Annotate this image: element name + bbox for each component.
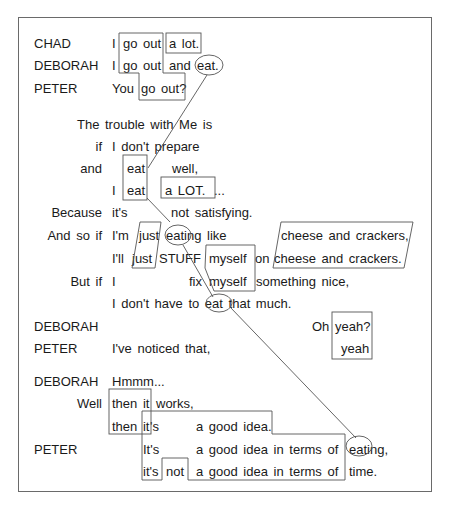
line: I don't have to eat that much. <box>112 296 291 312</box>
speaker-deborah: DEBORAH <box>34 374 98 390</box>
word: cheese and crackers. <box>274 251 402 267</box>
word: something nice, <box>256 274 349 290</box>
word: STUFF <box>159 251 201 267</box>
word-eat: eat <box>127 183 145 199</box>
word: go out? <box>141 81 186 97</box>
word: myself <box>209 274 247 290</box>
lead: But if <box>20 274 102 290</box>
word: just <box>132 251 152 267</box>
word: on <box>255 251 269 267</box>
word: I <box>112 36 116 52</box>
word: then it <box>112 396 149 412</box>
word: I <box>112 58 116 74</box>
word: myself <box>209 251 247 267</box>
word: not satisfying. <box>171 205 253 221</box>
word: a good idea. <box>196 419 272 435</box>
word: not <box>166 464 184 480</box>
word: Oh <box>312 319 329 335</box>
word-eat: eat <box>127 161 145 177</box>
word-eating: eating, <box>349 442 388 458</box>
word: I don't prepare <box>112 139 199 155</box>
word: then it <box>112 419 149 435</box>
word: it's <box>143 464 158 480</box>
speaker-deborah: DEBORAH <box>34 58 98 74</box>
word: ... <box>214 183 225 199</box>
word: I <box>112 274 116 290</box>
word: 's <box>150 419 159 435</box>
speaker-deborah: DEBORAH <box>34 319 98 335</box>
lead: if <box>40 139 102 155</box>
word: I'm <box>112 228 129 244</box>
word: go out <box>123 58 161 74</box>
word: and <box>169 58 191 74</box>
lead: and <box>40 161 102 177</box>
word: a LOT. <box>165 183 205 199</box>
lead: Because <box>20 205 102 221</box>
speaker-peter: PETER <box>34 81 77 97</box>
word: Hmmm... <box>112 374 165 390</box>
line: The trouble with Me is <box>77 117 212 133</box>
word: I <box>112 183 116 199</box>
speaker-peter: PETER <box>34 341 77 357</box>
word: works, <box>156 396 194 412</box>
word: fix <box>189 274 202 290</box>
speaker-chad: CHAD <box>34 36 71 52</box>
word: just <box>139 228 159 244</box>
word: a lot. <box>169 36 199 52</box>
lead: And so if <box>20 228 102 244</box>
word: cheese and crackers, <box>281 228 409 244</box>
word: time. <box>349 464 377 480</box>
speaker-peter: PETER <box>34 442 77 458</box>
word: I'll <box>112 251 124 267</box>
word: it's <box>112 205 127 221</box>
word: go out <box>123 36 161 52</box>
word: It's <box>143 442 159 458</box>
word: well, <box>172 161 198 177</box>
word: I've noticed that, <box>112 341 210 357</box>
word-eat: eat. <box>197 58 219 74</box>
word: yeah? <box>335 319 370 335</box>
word: a good idea in terms of <box>196 442 338 458</box>
lead: Well <box>40 396 102 412</box>
word: You <box>112 81 134 97</box>
word-eating: eating like <box>166 228 227 244</box>
word: a good idea in terms of <box>196 464 338 480</box>
word: yeah <box>341 341 369 357</box>
